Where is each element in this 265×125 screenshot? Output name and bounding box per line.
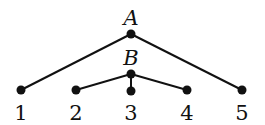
edge-A-1 xyxy=(21,34,131,90)
edge-B-2 xyxy=(76,74,131,90)
node-label-5: 5 xyxy=(235,103,248,124)
node-5 xyxy=(238,86,247,95)
node-label-2: 2 xyxy=(69,103,82,124)
node-4 xyxy=(183,86,192,95)
node-B xyxy=(127,70,136,79)
node-label-B: B xyxy=(123,48,138,69)
node-label-A: A xyxy=(123,8,138,29)
node-3 xyxy=(127,87,136,96)
node-2 xyxy=(72,86,81,95)
edge-A-5 xyxy=(131,34,242,90)
node-1 xyxy=(17,86,26,95)
tree-diagram: AB12345 xyxy=(0,0,265,125)
node-label-3: 3 xyxy=(124,103,137,124)
node-label-4: 4 xyxy=(180,103,193,124)
edge-B-4 xyxy=(131,74,187,90)
node-A xyxy=(127,30,136,39)
node-label-1: 1 xyxy=(14,103,27,124)
